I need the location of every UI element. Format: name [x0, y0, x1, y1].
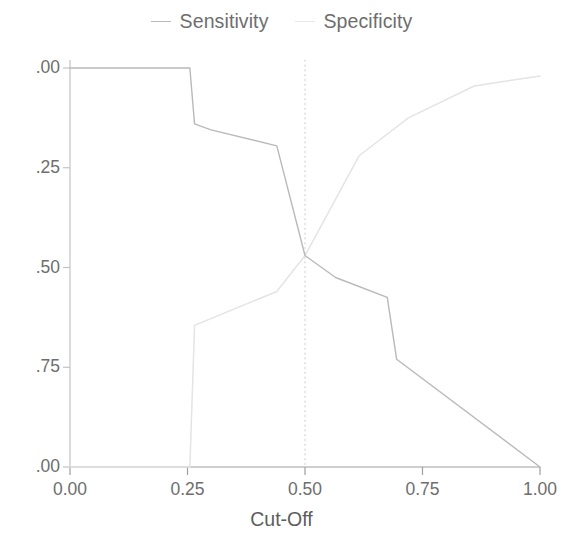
plot-area	[0, 0, 563, 537]
roc-cutoff-chart: Sensitivity Specificity .00.75.50.25.00 …	[0, 0, 563, 537]
y-axis-tick-label: .00	[4, 57, 60, 78]
x-axis-tick-label: 0.75	[383, 479, 463, 500]
x-axis-tick-label: 0.25	[148, 479, 228, 500]
y-axis-tick-label: .75	[4, 356, 60, 377]
y-axis-tick-label: .00	[4, 456, 60, 477]
y-axis-ticks	[63, 68, 70, 467]
y-axis-tick-label: .25	[4, 157, 60, 178]
y-axis-tick-label: .50	[4, 257, 60, 278]
x-axis-title: Cut-Off	[0, 508, 563, 531]
x-axis-tick-label: 0.50	[265, 479, 345, 500]
x-axis-tick-label: 1.00	[500, 479, 563, 500]
x-axis-tick-label: 0.00	[30, 479, 110, 500]
